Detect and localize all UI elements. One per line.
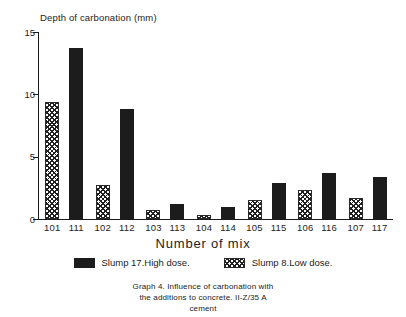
- x-tick-label-114: 114: [220, 222, 236, 233]
- y-tick-label: 5: [30, 152, 35, 162]
- x-tick-label-102: 102: [95, 222, 111, 233]
- bar-102: [96, 185, 110, 219]
- x-tick-label-105: 105: [246, 222, 262, 233]
- x-tick-label-104: 104: [196, 222, 212, 233]
- y-axis-title: Depth of carbonation (mm): [40, 12, 157, 23]
- bar-107: [349, 198, 363, 219]
- x-tick-label-103: 103: [145, 222, 161, 233]
- x-tick-label-101: 101: [44, 222, 60, 233]
- plot-area: 051015: [38, 32, 393, 220]
- bar-117: [373, 177, 387, 219]
- carbonation-bar-chart-figure: Depth of carbonation (mm) 051015 1011111…: [0, 0, 406, 317]
- x-tick-label-111: 111: [69, 222, 84, 233]
- x-tick-label-113: 113: [170, 222, 186, 233]
- legend-label: Slump 17.High dose.: [102, 257, 190, 268]
- figure-caption: Graph 4. Influence of carbonation with t…: [0, 281, 406, 314]
- x-tick-label-107: 107: [347, 222, 363, 233]
- x-tick-label-116: 116: [321, 222, 337, 233]
- x-axis-line: [38, 219, 393, 220]
- bar-116: [322, 173, 336, 219]
- y-tick-0: 0: [38, 219, 39, 220]
- legend-label: Slump 8.Low dose.: [252, 257, 333, 268]
- bar-114: [221, 207, 235, 219]
- bar-105: [248, 200, 262, 219]
- x-tick-label-112: 112: [119, 222, 135, 233]
- bar-113: [170, 204, 184, 219]
- y-tick-label: 0: [30, 215, 35, 225]
- x-axis-title: Number of mix: [0, 236, 406, 251]
- x-tick-label-115: 115: [271, 222, 287, 233]
- caption-line-2: the additions to concrete. II-Z/35 A: [0, 292, 406, 303]
- legend-swatch-hatch: [224, 258, 245, 268]
- x-tick-label-117: 117: [372, 222, 388, 233]
- bar-115: [272, 183, 286, 219]
- legend-swatch-solid: [74, 258, 95, 268]
- bars-layer: [39, 32, 393, 219]
- caption-line-1: Graph 4. Influence of carbonation with: [0, 281, 406, 292]
- caption-line-3: cement: [0, 303, 406, 314]
- bar-106: [298, 190, 312, 219]
- y-tick-label: 10: [24, 90, 35, 100]
- bar-112: [120, 109, 134, 219]
- bar-103: [146, 210, 160, 219]
- x-tick-label-106: 106: [297, 222, 313, 233]
- chart-legend: Slump 17.High dose.Slump 8.Low dose.: [0, 257, 406, 268]
- y-tick-label: 15: [24, 28, 35, 38]
- legend-item: Slump 8.Low dose.: [224, 257, 333, 268]
- bar-104: [197, 215, 211, 219]
- legend-item: Slump 17.High dose.: [74, 257, 190, 268]
- bar-101: [45, 102, 59, 219]
- bar-111: [69, 48, 83, 219]
